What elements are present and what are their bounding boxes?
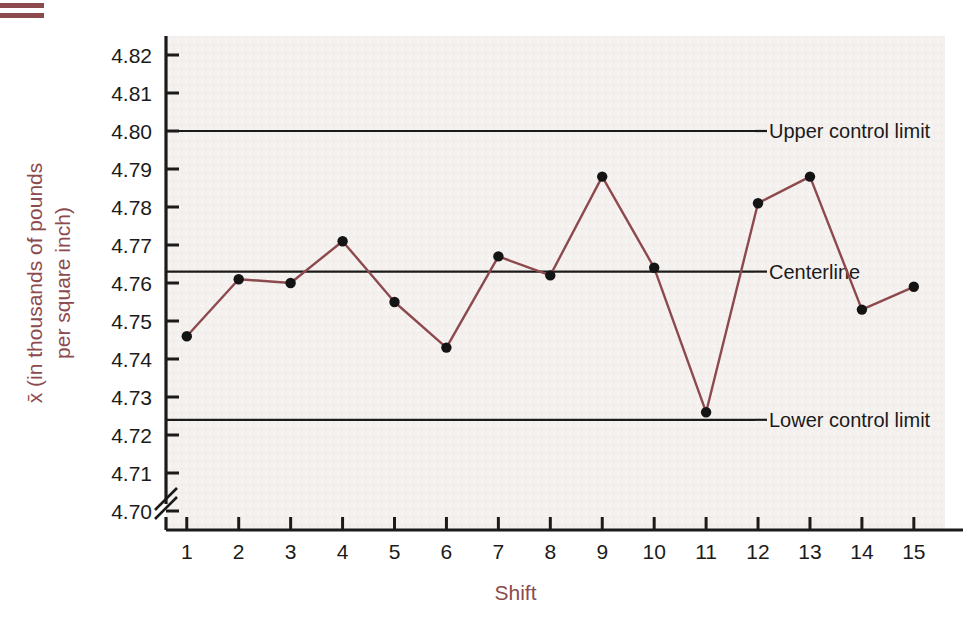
decorative-rule-bottom [0,13,44,18]
y-axis-label-line2: per square inch) [51,207,74,359]
annotation-label-ucl: Upper control limit [769,120,931,142]
x-tick-label: 2 [233,540,245,563]
x-tick-label: 5 [389,540,401,563]
x-tick-label: 8 [544,540,556,563]
data-point-shift-3 [285,278,295,288]
data-point-shift-10 [649,263,659,273]
y-axis-label-line1: x̄ (in thousands of pounds [23,163,46,404]
y-tick-label: 4.81 [111,82,152,105]
x-tick-label: 13 [798,540,821,563]
x-tick-label: 3 [285,540,297,563]
y-tick-label: 4.76 [111,272,152,295]
x-tick-label: 15 [902,540,925,563]
y-tick-label: 4.72 [111,424,152,447]
y-tick-label: 4.79 [111,158,152,181]
x-tick-label: 4 [337,540,349,563]
y-tick-label: 4.73 [111,386,152,409]
data-point-shift-9 [597,171,607,181]
y-tick-label: 4.74 [111,348,152,371]
data-point-shift-14 [857,304,867,314]
data-point-shift-4 [337,236,347,246]
decorative-double-rule [0,0,60,26]
data-point-shift-2 [234,274,244,284]
decorative-rule-top [0,3,44,8]
y-tick-label: 4.75 [111,310,152,333]
data-point-shift-7 [493,251,503,261]
annotation-label-lcl: Lower control limit [769,409,931,431]
data-point-shift-15 [909,282,919,292]
x-axis-label: Shift [494,581,536,604]
y-tick-label: 4.77 [111,234,152,257]
control-chart-figure: 4.704.714.724.734.744.754.764.774.784.79… [0,0,963,631]
x-tick-label: 1 [181,540,193,563]
chart-canvas: 4.704.714.724.734.744.754.764.774.784.79… [0,0,963,631]
data-point-shift-6 [441,342,451,352]
x-tick-label: 14 [850,540,874,563]
y-tick-label: 4.71 [111,462,152,485]
x-tick-label: 12 [746,540,769,563]
x-tick-label: 11 [695,540,717,563]
data-point-shift-12 [753,198,763,208]
x-tick-label: 9 [596,540,608,563]
x-tick-label: 7 [493,540,505,563]
data-point-shift-1 [182,331,192,341]
y-tick-label: 4.82 [111,44,152,67]
data-point-shift-11 [701,407,711,417]
data-point-shift-13 [805,171,815,181]
y-tick-label: 4.78 [111,196,152,219]
x-tick-label: 10 [642,540,665,563]
data-point-shift-5 [389,297,399,307]
x-tick-label: 6 [441,540,453,563]
y-tick-label: 4.80 [111,120,152,143]
y-tick-label: 4.70 [111,500,152,523]
data-point-shift-8 [545,270,555,280]
